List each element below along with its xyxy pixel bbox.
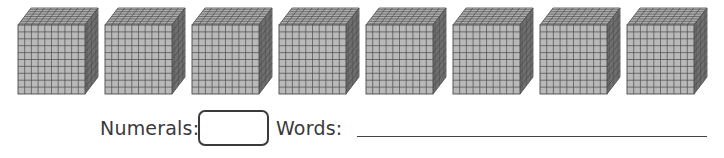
thousand-cube xyxy=(18,8,98,94)
numerals-label: Numerals: xyxy=(100,117,199,139)
thousand-cube xyxy=(279,8,359,94)
thousand-cubes-figure xyxy=(0,0,724,100)
thousand-cube xyxy=(627,8,707,94)
thousand-cube xyxy=(366,8,446,94)
thousand-cube xyxy=(105,8,185,94)
thousand-cube xyxy=(540,8,620,94)
thousand-cube xyxy=(192,8,272,94)
words-label: Words: xyxy=(276,117,342,139)
thousand-cube xyxy=(453,8,533,94)
numerals-answer-box[interactable] xyxy=(198,110,269,146)
words-answer-line[interactable] xyxy=(357,136,707,137)
